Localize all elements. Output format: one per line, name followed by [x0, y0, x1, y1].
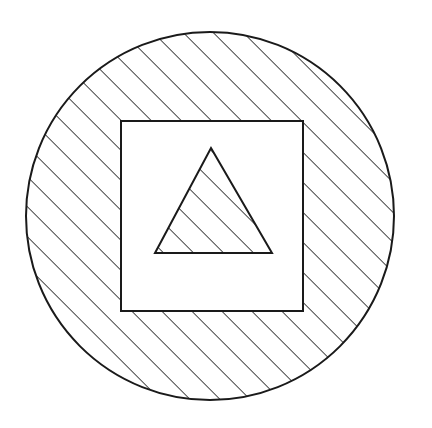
diagram-canvas — [0, 0, 432, 428]
geometry-figure — [0, 0, 432, 428]
